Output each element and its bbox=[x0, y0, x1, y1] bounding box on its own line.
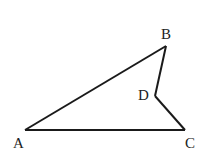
vertex-label-b: B bbox=[161, 27, 171, 42]
vertex-label-c: C bbox=[185, 136, 195, 151]
segment-bd bbox=[155, 46, 166, 96]
figure-svg bbox=[0, 0, 209, 157]
vertex-label-a: A bbox=[13, 136, 24, 151]
vertex-label-d: D bbox=[138, 88, 149, 103]
geometry-diagram: A B D C bbox=[0, 0, 209, 157]
segment-dc bbox=[155, 96, 185, 130]
